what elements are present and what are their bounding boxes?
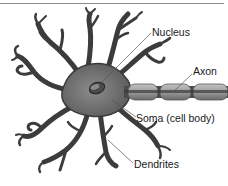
label-nucleus: Nucleus <box>152 26 190 38</box>
label-dendrites: Dendrites <box>134 158 179 170</box>
label-axon: Axon <box>193 65 217 77</box>
neuron-illustration <box>0 0 228 186</box>
axon <box>124 84 228 100</box>
label-soma: Soma (cell body) <box>136 112 215 124</box>
